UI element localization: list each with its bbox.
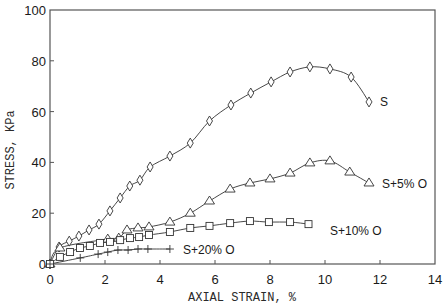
diamond-marker [107,206,113,216]
series-label-s-20-o: S+20% O [183,243,235,257]
x-tick-label: 10 [318,272,332,287]
series-curves [50,67,369,264]
plus-marker [114,246,122,254]
diamond-marker [307,62,313,72]
square-marker [265,219,272,226]
x-tick-label: 0 [46,272,53,287]
plus-marker [76,254,84,262]
triangle-marker [364,178,374,186]
triangle-marker [285,168,295,176]
square-marker [166,228,173,235]
x-tick-label: 2 [101,272,108,287]
curve-s [50,67,369,264]
x-tick-label: 14 [428,272,442,287]
series-label-s-10-o: S+10% O [330,224,382,238]
diamond-marker [287,67,293,77]
diamond-marker [207,116,213,126]
square-marker [56,253,63,260]
diamond-marker [147,162,153,172]
triangle-marker [345,167,355,175]
plus-marker [144,245,152,253]
square-marker [76,244,83,251]
diamond-marker [127,181,133,191]
square-marker [86,242,93,249]
y-tick-label: 80 [32,54,46,69]
x-tick-label: 6 [211,272,218,287]
y-tick-label: 60 [32,105,46,120]
plus-marker [104,248,112,256]
x-axis-title: AXIAL STRAIN, % [188,291,297,305]
diamond-marker [96,219,102,229]
square-marker [305,221,312,228]
x-tick-label: 8 [266,272,273,287]
diamond-marker [86,225,92,235]
diamond-marker [137,175,143,185]
x-tick-label: 4 [156,272,163,287]
y-tick-label: 20 [32,206,46,221]
square-marker [97,239,104,246]
plus-marker [124,246,132,254]
square-marker [227,220,234,227]
y-tick-label: 100 [24,3,46,18]
y-tick-label: 40 [32,155,46,170]
plus-marker [94,250,102,258]
y-axis-title: STRESS, KPa [4,110,18,189]
series-labels: SS+5% OS+10% OS+20% O [183,95,427,257]
diamond-marker [167,151,173,161]
series-label-s: S [380,95,388,109]
diamond-marker [327,64,333,74]
stress-strain-chart: 02468101214020406080100 SS+5% OS+10% OS+… [0,0,446,308]
square-marker [136,234,143,241]
diamond-marker [76,231,82,241]
plus-marker [134,245,142,253]
diamond-marker [187,138,193,148]
triangle-marker [185,208,195,216]
square-marker [127,235,134,242]
triangle-marker [205,196,215,204]
square-marker [287,219,294,226]
square-marker [206,222,213,229]
square-marker [246,218,253,225]
square-marker [146,232,153,239]
square-marker [117,237,124,244]
square-marker [187,224,194,231]
y-tick-label: 0 [39,257,46,272]
series-markers [45,62,374,269]
triangle-marker [325,156,335,164]
square-marker [106,238,113,245]
diamond-marker [268,77,274,87]
x-tick-label: 12 [373,272,387,287]
diamond-marker [228,100,234,110]
series-label-s-5-o: S+5% O [382,177,427,191]
diamond-marker [348,72,354,82]
diamond-marker [248,88,254,98]
square-marker [67,249,74,256]
plus-marker [166,245,174,253]
triangle-marker [133,223,143,231]
